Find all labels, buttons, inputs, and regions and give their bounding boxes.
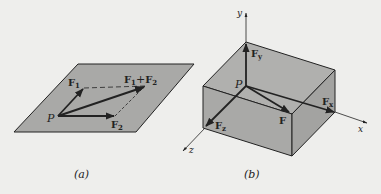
z-axis [183, 128, 205, 151]
x-axis-label: x [358, 124, 363, 134]
y-axis-label: y [236, 8, 243, 18]
f-label: F [279, 115, 286, 126]
caption-b: (b) [244, 168, 260, 181]
point-p-label: P [46, 112, 55, 125]
caption-a: (a) [74, 168, 89, 181]
plane [14, 64, 194, 132]
point-p-label: P [234, 78, 243, 91]
z-axis-label: z [188, 145, 194, 155]
vector-figure: P F1 F2 F1+F2 (a) y x z P F Fy Fx Fz (b) [0, 0, 381, 194]
x-axis [335, 112, 367, 123]
panel-a: P F1 F2 F1+F2 (a) [14, 64, 194, 181]
panel-b: y x z P F Fy Fx Fz (b) [183, 8, 367, 181]
